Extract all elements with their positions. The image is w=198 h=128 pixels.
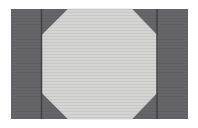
horizontal-scanline-texture [11,9,188,119]
figure-root [0,0,198,128]
figure-canvas [0,0,198,128]
